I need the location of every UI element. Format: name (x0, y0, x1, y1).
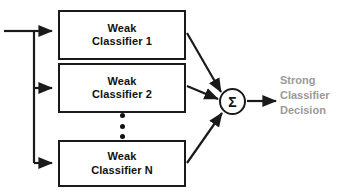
vertical-ellipsis-icon (114, 113, 130, 139)
ellipsis-dot (120, 134, 125, 139)
edge-weak-1-to-sum (187, 33, 221, 92)
ellipsis-dot (120, 113, 125, 118)
output-label-line2: Classifier (280, 88, 350, 103)
weak-classifier-2-box[interactable]: Weak Classifier 2 (58, 63, 186, 113)
ellipsis-dot (120, 124, 125, 129)
boosting-diagram: Weak Classifier 1 Weak Classifier 2 Weak… (0, 0, 352, 196)
weak-classifier-1-label-line2: Classifier 1 (92, 35, 152, 49)
weak-classifier-2-label-line2: Classifier 2 (92, 88, 152, 102)
strong-classifier-decision-label: Strong Classifier Decision (280, 73, 350, 118)
weak-classifier-n-label-line2: Classifier N (91, 164, 153, 178)
weak-classifier-2-label-line1: Weak (108, 75, 137, 89)
output-label-line3: Decision (280, 103, 350, 118)
edge-weak-2-to-sum (187, 86, 218, 99)
weak-classifier-n-box[interactable]: Weak Classifier N (58, 140, 186, 187)
weak-classifier-n-label-line1: Weak (108, 150, 137, 164)
output-label-line1: Strong (280, 73, 350, 88)
weak-classifier-1-label-line1: Weak (108, 22, 137, 36)
weak-classifier-1-box[interactable]: Weak Classifier 1 (58, 10, 186, 60)
summation-node[interactable]: Σ (219, 88, 246, 115)
sigma-icon: Σ (228, 94, 236, 110)
edge-weak-n-to-sum (187, 113, 222, 163)
